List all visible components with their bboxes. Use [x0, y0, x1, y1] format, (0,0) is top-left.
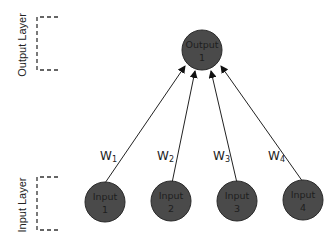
weight-label-w1: W1: [100, 149, 117, 164]
svg-text:Input: Input: [93, 191, 118, 202]
svg-text:Input: Input: [291, 189, 316, 200]
weight-label-w4: W4: [268, 149, 285, 164]
neural-network-diagram: Output Layer Input Layer W1 W2 W3 W4 Out…: [0, 0, 335, 240]
svg-text:4: 4: [300, 202, 306, 213]
edges: [105, 66, 303, 183]
svg-text:1: 1: [102, 204, 108, 215]
input-layer-bracket: [37, 177, 58, 230]
weight-label-w3: W3: [213, 149, 230, 164]
input-node-3: Input 3: [217, 181, 257, 221]
input-node-2: Input 2: [151, 181, 191, 221]
edge-w2: [172, 71, 195, 183]
svg-text:Output: Output: [186, 39, 219, 50]
edge-w4: [221, 66, 303, 182]
svg-text:Input: Input: [159, 190, 184, 201]
output-node-1: Output 1: [182, 30, 222, 70]
edge-w3: [211, 71, 237, 183]
svg-text:1: 1: [199, 52, 205, 63]
input-node-4: Input 4: [283, 180, 323, 220]
svg-text:3: 3: [234, 203, 240, 214]
input-node-1: Input 1: [85, 182, 125, 222]
weight-label-w2: W2: [157, 149, 174, 164]
input-layer-label: Input Layer: [16, 177, 28, 232]
output-layer-bracket: [37, 17, 58, 70]
svg-text:2: 2: [168, 203, 174, 214]
output-layer-label: Output Layer: [16, 13, 28, 77]
edge-w1: [105, 66, 185, 183]
svg-text:Input: Input: [225, 190, 250, 201]
